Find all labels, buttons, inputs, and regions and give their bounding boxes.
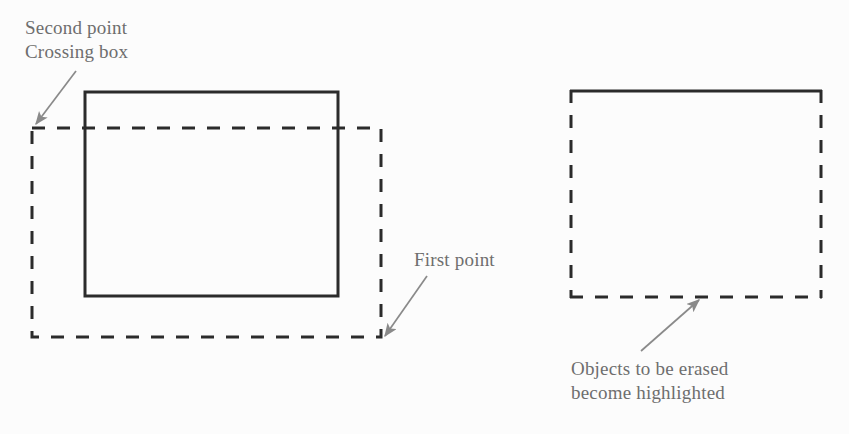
left-panel [32,71,427,337]
objects-erased-label-line2: become highlighted [571,381,729,405]
right-panel [570,90,822,351]
first-point-label-line1: First point [414,248,495,272]
second-point-crossing-box-label: Second point Crossing box [25,16,128,64]
first-point-label: First point [414,248,495,272]
objects-erased-label: Objects to be erased become highlighted [571,357,729,405]
objects-erased-arrow [641,300,699,351]
second-point-label-line2: Crossing box [25,40,128,64]
crossing-box-figure: Second point Crossing box First point Ob… [0,0,849,434]
second-point-label-line1: Second point [25,16,128,40]
objects-erased-label-line1: Objects to be erased [571,357,729,381]
first-point-arrow [385,276,427,336]
second-point-arrow [36,71,76,124]
object-rectangle [85,92,338,296]
